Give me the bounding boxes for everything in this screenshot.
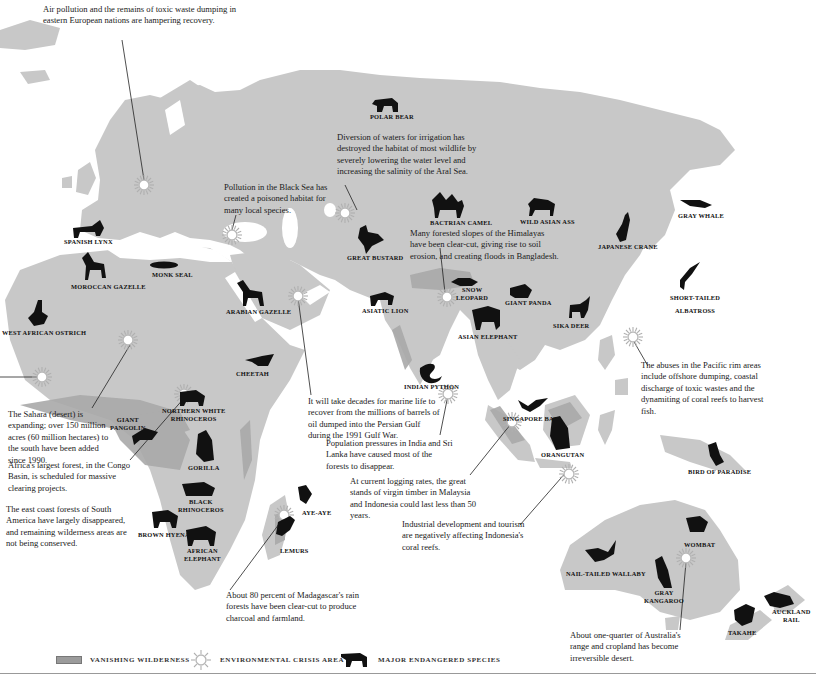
- map-legend: Vanishing Wilderness Environmental Crisi…: [0, 640, 816, 684]
- species-monk-seal: Monk Seal: [152, 271, 193, 279]
- species-snow-leopard: SnowLeopard: [456, 286, 488, 302]
- note-persian-gulf: It will take decades for marine life to …: [308, 396, 442, 442]
- species-african-elephant: AfricanElephant: [184, 547, 221, 563]
- note-congo: Africa's largest forest, in the Congo Ba…: [8, 460, 136, 494]
- species-gray-whale: Gray Whale: [678, 212, 724, 220]
- species-nail-tailed-wallaby: Nail-tailed Wallaby: [566, 570, 646, 578]
- note-black-sea: Pollution in the Black Sea has created a…: [224, 182, 344, 216]
- legend-crisis-area: Environmental Crisis Area: [190, 650, 344, 670]
- species-japanese-crane: Japanese Crane: [598, 243, 658, 251]
- species-takahe: Takahe: [728, 629, 756, 637]
- legend-vanishing-wilderness: Vanishing Wilderness: [56, 650, 190, 670]
- species-giant-pangolin: GiantPangolin: [110, 416, 146, 432]
- note-madagascar: About 80 percent of Madagascar's rain fo…: [226, 590, 362, 624]
- species-sika-deer: Sika Deer: [553, 322, 589, 330]
- species-wombat: Wombat: [684, 541, 715, 549]
- legend-endangered-species: Major Endangered Species: [340, 650, 501, 670]
- species-arabian-gazelle: Arabian Gazelle: [226, 308, 291, 316]
- species-polar-bear: Polar Bear: [370, 113, 414, 121]
- species-cheetah: Cheetah: [236, 370, 269, 378]
- species-aye-aye: Aye-Aye: [302, 509, 331, 517]
- note-malaysia-indonesia: At current logging rates, the great stan…: [350, 476, 480, 522]
- species-singapore-bat: Singapore Bat: [503, 415, 558, 423]
- species-brown-hyena: Brown Hyena: [138, 531, 190, 539]
- note-eastern-europe: Air pollution and the remains of toxic w…: [43, 4, 243, 27]
- note-india-sri-lanka: Population pressures in India and Sri La…: [326, 438, 454, 472]
- species-short-tailed-albatross: Short-tailedAlbatross: [670, 294, 720, 315]
- legend-divider: [0, 673, 816, 674]
- species-northern-white-rhinoceros: Northern WhiteRhinoceros: [162, 407, 225, 423]
- species-moroccan-gazelle: Moroccan Gazelle: [71, 283, 146, 291]
- note-south-america: The east coast forests of South America …: [6, 504, 134, 550]
- note-aral-sea: Diversion of waters for irrigation has d…: [337, 132, 497, 178]
- species-lemurs: Lemurs: [280, 547, 309, 555]
- species-gray-kangaroo: GrayKangaroo: [644, 589, 684, 605]
- sun-burst-icon: [190, 649, 212, 671]
- species-bird-of-paradise: Bird of Paradise: [688, 468, 751, 476]
- species-gorilla: Gorilla: [188, 464, 220, 472]
- bear-silhouette-icon: [340, 651, 370, 669]
- species-asiatic-lion: Asiatic Lion: [362, 307, 409, 315]
- note-himalayas: Many forested slopes of the Himalayas ha…: [410, 228, 560, 262]
- note-indonesia-reefs: Industrial development and tourism are n…: [402, 519, 526, 553]
- species-asian-elephant: Asian Elephant: [458, 333, 517, 341]
- note-pacific-rim: The abuses in the Pacific rim areas incl…: [641, 360, 771, 417]
- note-sahara: The Sahara (desert) is expanding; over 1…: [8, 409, 114, 466]
- species-giant-panda: Giant Panda: [505, 299, 552, 307]
- species-bactrian-camel: Bactrian Camel: [430, 219, 492, 227]
- species-auckland-rail: AucklandRail: [772, 608, 811, 624]
- species-black-rhinoceros: BlackRhinoceros: [178, 498, 224, 514]
- species-spanish-lynx: Spanish Lynx: [64, 238, 113, 246]
- species-west-african-ostrich: West African Ostrich: [2, 329, 86, 337]
- species-indian-python: Indian Python: [404, 383, 459, 391]
- species-orangutan: Orangutan: [541, 451, 584, 459]
- species-wild-asian-ass: Wild Asian Ass: [520, 218, 575, 226]
- vanishing-wilderness-swatch: [56, 656, 82, 664]
- species-great-bustard: Great Bustard: [347, 254, 403, 262]
